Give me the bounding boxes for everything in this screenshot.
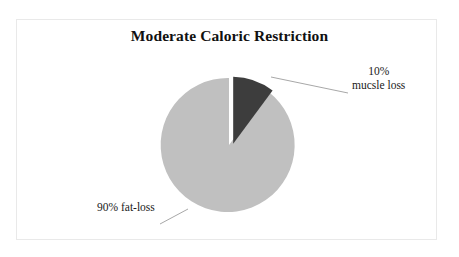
muscle-loss-leader-line — [271, 77, 348, 93]
pie-graphic — [0, 0, 459, 257]
muscle-loss-label: 10% mucsle loss — [352, 64, 405, 93]
muscle-loss-label-percent: 10% — [352, 64, 405, 78]
muscle-loss-label-text: mucsle loss — [352, 78, 405, 92]
fat-loss-leader-line — [160, 209, 188, 224]
fat-loss-label: 90% fat-loss — [97, 200, 155, 214]
fat-loss-label-text: 90% fat-loss — [97, 200, 155, 214]
fat-loss-slice — [161, 78, 295, 212]
pie-chart-screenshot: Moderate Caloric Restriction 10% mucsle … — [0, 0, 459, 257]
